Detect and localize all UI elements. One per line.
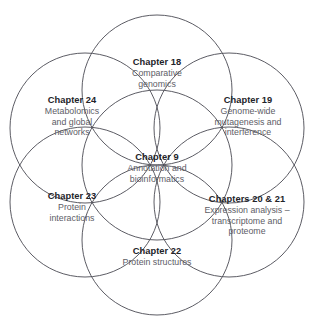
label-chapter-9-body: Annotation and bioinformatics [127, 163, 186, 184]
label-chapters-20-21-title: Chapters 20 & 21 [204, 194, 289, 205]
label-chapter-18: Chapter 18 Comparative genomics [132, 57, 182, 89]
label-line: proteome [204, 226, 289, 236]
label-chapter-9-title: Chapter 9 [127, 152, 186, 163]
label-chapters-20-21-body: Expression analysis – transcriptome and … [204, 205, 289, 236]
label-chapter-23: Chapter 23 Protein interactions [48, 191, 97, 223]
label-chapter-24-title: Chapter 24 [45, 95, 99, 106]
label-line: Comparative [132, 68, 182, 78]
label-line: genomics [132, 79, 182, 89]
label-line: mutagenesis and [215, 117, 282, 127]
label-line: interference [215, 127, 282, 137]
label-chapter-22: Chapter 22 Protein structures [123, 246, 192, 268]
label-line: Protein structures [123, 257, 192, 267]
label-chapter-24: Chapter 24 Metabolomics and global netwo… [45, 95, 99, 138]
label-chapter-22-title: Chapter 22 [123, 246, 192, 257]
label-chapter-23-title: Chapter 23 [48, 191, 97, 202]
label-chapters-20-21: Chapters 20 & 21 Expression analysis – t… [204, 194, 289, 237]
label-chapter-23-body: Protein interactions [48, 202, 97, 223]
label-line: Annotation and [127, 163, 186, 173]
label-chapter-18-title: Chapter 18 [132, 57, 182, 68]
label-chapter-19: Chapter 19 Genome-wide mutagenesis and i… [215, 95, 282, 138]
venn-diagram: Chapter 18 Comparative genomics Chapter … [0, 0, 314, 330]
label-line: transcriptome and [204, 216, 289, 226]
label-line: Metabolomics [45, 106, 99, 116]
label-line: and global [45, 117, 99, 127]
label-chapter-19-title: Chapter 19 [215, 95, 282, 106]
label-line: networks [45, 127, 99, 137]
label-chapter-18-body: Comparative genomics [132, 68, 182, 89]
label-line: Protein [48, 202, 97, 212]
label-chapter-24-body: Metabolomics and global networks [45, 106, 99, 137]
label-line: interactions [48, 213, 97, 223]
label-line: Expression analysis – [204, 205, 289, 215]
label-line: bioinformatics [127, 174, 186, 184]
label-chapter-9: Chapter 9 Annotation and bioinformatics [127, 152, 186, 184]
label-chapter-22-body: Protein structures [123, 257, 192, 267]
label-chapter-19-body: Genome-wide mutagenesis and interference [215, 106, 282, 137]
label-line: Genome-wide [215, 106, 282, 116]
